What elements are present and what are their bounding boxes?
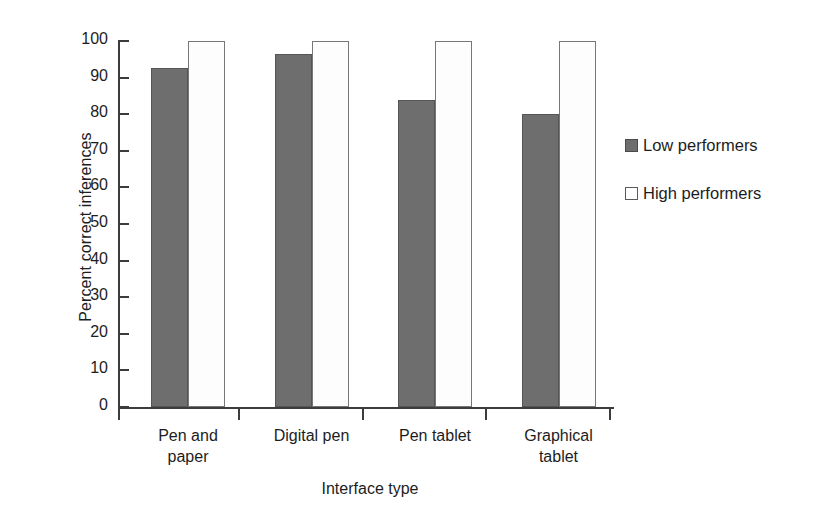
y-axis-tick (120, 333, 129, 335)
y-axis-tick-label: 60 (60, 176, 108, 194)
x-axis-tick (485, 409, 487, 420)
x-axis-category-label: Graphicaltablet (484, 425, 634, 467)
legend-label-low-performers: Low performers (643, 136, 758, 155)
legend-item-low-performers: Low performers (625, 132, 820, 158)
bar-low-4 (522, 114, 559, 407)
legend-item-high-performers: High performers (625, 180, 820, 206)
x-axis-tick (609, 409, 611, 420)
y-axis-tick-label: 30 (60, 286, 108, 304)
y-axis-tick-label: 40 (60, 250, 108, 268)
category-label-line: paper (113, 446, 263, 467)
x-axis-line (118, 407, 614, 409)
y-axis-tick (120, 296, 129, 298)
legend: Low performers High performers (625, 132, 820, 206)
bar-chart-figure: Percent correct inferences 0102030405060… (0, 0, 820, 527)
y-axis-tick (120, 77, 129, 79)
bar-low-3 (398, 100, 435, 407)
bar-high-3 (435, 41, 472, 407)
plot-area (118, 41, 612, 407)
y-axis-tick-label: 50 (60, 213, 108, 231)
y-axis-tick-label: 90 (60, 67, 108, 85)
y-axis-tick-label: 70 (60, 140, 108, 158)
y-axis-tick (120, 369, 129, 371)
legend-swatch-high-performers (625, 187, 638, 200)
x-axis-tick-origin (118, 409, 120, 420)
bar-high-1 (188, 41, 225, 407)
bar-low-2 (275, 54, 312, 407)
y-axis-tick (120, 150, 129, 152)
y-axis-tick-label: 100 (60, 30, 108, 48)
category-label-line: tablet (484, 446, 634, 467)
x-axis-tick (362, 409, 364, 420)
bar-high-4 (559, 41, 596, 407)
y-axis-tick-label: 20 (60, 323, 108, 341)
category-label-line: Graphical (484, 425, 634, 446)
y-axis-tick-label: 0 (60, 396, 108, 414)
x-axis-tick (238, 409, 240, 420)
bar-high-2 (312, 41, 349, 407)
legend-clip-region: Low performers High performers (625, 132, 820, 222)
legend-label-high-performers: High performers (643, 184, 761, 203)
y-axis-tick-label: 10 (60, 359, 108, 377)
y-axis-tick (120, 40, 129, 42)
y-axis-tick-label: 80 (60, 103, 108, 121)
y-axis-tick (120, 260, 129, 262)
y-axis-tick (120, 113, 129, 115)
y-axis-tick (120, 186, 129, 188)
x-axis-title: Interface type (120, 480, 620, 498)
bar-low-1 (151, 68, 188, 407)
y-axis-tick (120, 223, 129, 225)
y-axis-tick (120, 406, 129, 408)
legend-swatch-low-performers (625, 139, 638, 152)
